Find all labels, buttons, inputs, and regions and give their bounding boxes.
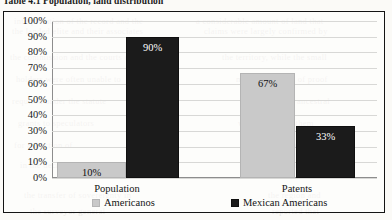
bar-population-mexican-americans[interactable]: 90% [126, 37, 179, 178]
y-axis-tick-label: 60% [28, 79, 47, 89]
bar-value-label: 90% [127, 42, 178, 53]
y-axis-tick-label: 0% [33, 173, 47, 183]
plot-area: 10%90%67%33% [52, 21, 377, 178]
y-axis-tick-label: 80% [28, 47, 47, 57]
bar-population-americanos[interactable]: 10% [57, 162, 126, 178]
gridline [52, 115, 377, 116]
legend-swatch-icon-americanos [92, 199, 100, 207]
y-axis-tick-label: 10% [28, 157, 47, 167]
gridline [52, 100, 377, 101]
figure-caption: Table 4.1 Population, land distribution [3, 0, 163, 6]
legend-item-mexican-americans[interactable]: Mexican Americans [231, 197, 327, 208]
y-axis-tick-label: 70% [28, 63, 47, 73]
y-axis-tick-label: 20% [28, 142, 47, 152]
category-label-population: Population [52, 183, 182, 194]
bar-patents-mexican-americans[interactable]: 33% [296, 126, 355, 178]
y-axis-tick-label: 90% [28, 32, 47, 42]
gridline [52, 68, 377, 69]
y-axis-tick-label: 100% [23, 16, 48, 26]
legend-label-americanos: Americanos [104, 197, 155, 208]
y-axis-labels: 100%90%80%70%60%50%40%30%20%10%0% [3, 21, 50, 178]
gridline [52, 21, 377, 22]
legend-item-americanos[interactable]: Americanos [92, 197, 155, 208]
legend-label-mexican-americans: Mexican Americans [243, 197, 327, 208]
category-label-patents: Patents [232, 183, 362, 194]
gridline [52, 37, 377, 38]
chart-legend: Americanos Mexican Americans [0, 197, 392, 211]
bar-value-label: 10% [58, 167, 125, 178]
y-axis-tick-label: 30% [28, 126, 47, 136]
gridline [52, 84, 377, 85]
bar-value-label: 33% [297, 131, 354, 142]
bar-value-label: 67% [241, 78, 294, 89]
y-axis-tick-label: 40% [28, 110, 47, 120]
bar-patents-americanos[interactable]: 67% [240, 73, 295, 178]
legend-swatch-icon-mexican-americans [231, 199, 239, 207]
gridline [52, 52, 377, 53]
y-axis-tick-label: 50% [28, 95, 47, 105]
